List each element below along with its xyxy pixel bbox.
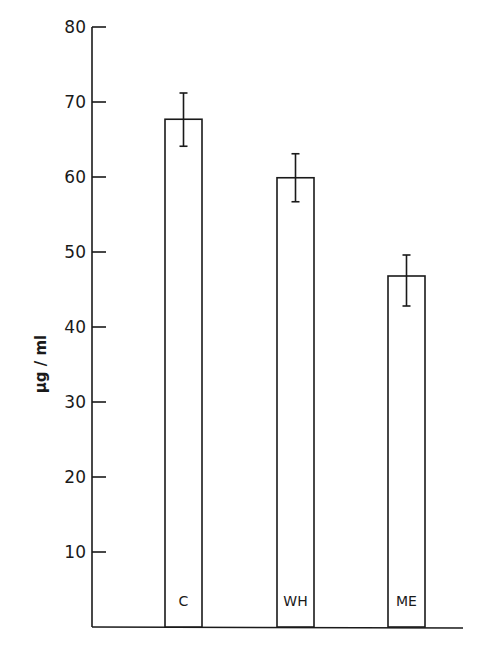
bar-chart: 1020304050607080 CWHME µg / ml: [0, 0, 481, 649]
bar-category-label: ME: [396, 593, 417, 609]
y-tick-label: 70: [64, 92, 86, 112]
bar-wh: WH: [277, 154, 314, 627]
bar-rect: [388, 276, 425, 627]
y-tick-label: 50: [64, 242, 86, 262]
y-tick-label: 10: [64, 542, 86, 562]
y-tick-label: 20: [64, 467, 86, 487]
y-tick-label: 40: [64, 317, 86, 337]
bar-me: ME: [388, 255, 425, 627]
bars: CWHME: [165, 93, 425, 627]
bar-rect: [277, 178, 314, 627]
bar-rect: [165, 119, 202, 627]
y-tick-label: 60: [64, 167, 86, 187]
y-tick-label: 80: [64, 17, 86, 37]
bar-c: C: [165, 93, 202, 627]
bar-category-label: WH: [283, 593, 307, 609]
bar-category-label: C: [179, 593, 189, 609]
y-tick-label: 30: [64, 392, 86, 412]
y-axis-label: µg / ml: [32, 335, 50, 393]
